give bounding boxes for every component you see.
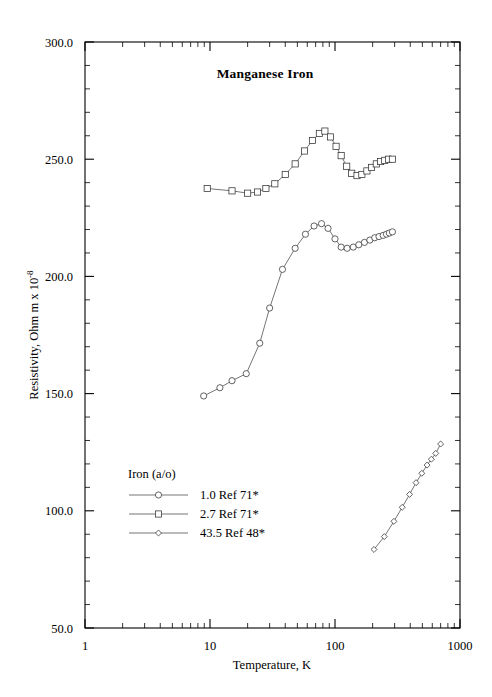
legend-marker-circle xyxy=(155,492,161,498)
x-tick-label: 1 xyxy=(82,639,88,653)
data-point-circle xyxy=(229,378,235,384)
data-point-square xyxy=(309,137,315,143)
data-point-diamond xyxy=(413,480,419,486)
legend-label: 2.7 Ref 71* xyxy=(200,507,259,521)
y-tick-label: 150.0 xyxy=(45,387,73,401)
x-axis-label: Temperature, K xyxy=(233,658,311,672)
data-point-square xyxy=(245,190,251,196)
data-point-circle xyxy=(332,236,338,242)
series-circle xyxy=(201,221,396,399)
legend-marker-square xyxy=(155,511,161,517)
data-point-square xyxy=(272,181,278,187)
data-point-circle xyxy=(311,223,317,229)
data-point-diamond xyxy=(419,470,425,476)
data-point-circle xyxy=(217,385,223,391)
y-tick-label: 250.0 xyxy=(45,153,73,167)
y-axis-label-main: Resistivity, Ohm m x 10 xyxy=(27,278,41,400)
chart-title: Manganese Iron xyxy=(217,66,314,81)
y-axis-label: Resistivity, Ohm m x 10-8 xyxy=(25,270,41,400)
data-point-circle xyxy=(279,266,285,272)
series-square xyxy=(204,128,395,196)
data-point-diamond xyxy=(433,450,439,456)
data-point-circle xyxy=(267,305,273,311)
data-point-square xyxy=(263,185,269,191)
legend-marker-diamond xyxy=(156,530,162,536)
data-point-diamond xyxy=(407,491,413,497)
data-point-circle xyxy=(201,393,207,399)
data-point-square xyxy=(333,143,339,149)
legend-label: 43.5 Ref 48* xyxy=(200,526,265,540)
y-tick-label: 50.0 xyxy=(51,622,73,636)
y-axis-label-group: Resistivity, Ohm m x 10-8 xyxy=(25,270,41,400)
data-point-diamond xyxy=(428,456,434,462)
data-point-diamond xyxy=(438,441,444,447)
series-diamond xyxy=(371,441,444,552)
data-point-square xyxy=(282,171,288,177)
data-point-circle xyxy=(325,225,331,231)
chart-legend: Iron (a/o)1.0 Ref 71*2.7 Ref 71*43.5 Ref… xyxy=(128,467,265,540)
data-point-diamond xyxy=(424,462,430,468)
data-point-circle xyxy=(257,340,263,346)
x-tick-label: 10 xyxy=(204,639,217,653)
data-point-square xyxy=(301,148,307,154)
y-tick-label: 200.0 xyxy=(45,270,73,284)
plot-frame xyxy=(85,42,460,628)
data-point-square xyxy=(292,161,298,167)
legend-label: 1.0 Ref 71* xyxy=(200,488,259,502)
x-tick-label: 1000 xyxy=(448,639,473,653)
legend-title: Iron (a/o) xyxy=(128,467,176,481)
y-tick-label: 100.0 xyxy=(45,504,73,518)
data-point-square xyxy=(322,128,328,134)
data-point-circle xyxy=(356,242,362,248)
data-point-square xyxy=(327,134,333,140)
data-point-square xyxy=(389,156,395,162)
data-point-square xyxy=(338,153,344,159)
data-point-diamond xyxy=(391,518,397,524)
y-tick-label: 300.0 xyxy=(45,36,73,50)
figure-container: 50.0100.0150.0200.0250.0300.01101001000 … xyxy=(0,0,492,697)
data-point-circle xyxy=(302,231,308,237)
data-point-circle xyxy=(243,371,249,377)
data-point-circle xyxy=(344,245,350,251)
series-line-square xyxy=(207,131,392,193)
data-point-square xyxy=(229,188,235,194)
data-point-circle xyxy=(338,244,344,250)
resistivity-vs-temperature-chart: 50.0100.0150.0200.0250.0300.01101001000 … xyxy=(0,0,492,697)
data-point-diamond xyxy=(399,504,405,510)
y-axis-label-exponent: -8 xyxy=(25,270,35,278)
data-point-circle xyxy=(389,229,395,235)
data-point-circle xyxy=(318,221,324,227)
data-point-square xyxy=(254,189,260,195)
x-tick-label: 100 xyxy=(326,639,345,653)
data-point-square xyxy=(344,163,350,169)
data-point-circle xyxy=(292,245,298,251)
data-point-square xyxy=(204,185,210,191)
